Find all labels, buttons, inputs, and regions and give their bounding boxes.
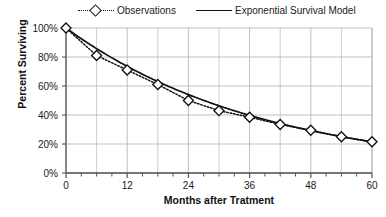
y-axis: [62, 25, 66, 173]
svg-text:100%: 100%: [32, 23, 58, 34]
svg-text:12: 12: [122, 180, 134, 191]
plot-area: 0%20%40%60%80%100%01224364860: [0, 0, 386, 217]
svg-text:60: 60: [366, 180, 378, 191]
svg-text:24: 24: [183, 180, 195, 191]
svg-text:60%: 60%: [38, 81, 58, 92]
svg-text:20%: 20%: [38, 139, 58, 150]
svg-text:48: 48: [305, 180, 317, 191]
svg-text:80%: 80%: [38, 52, 58, 63]
svg-text:0: 0: [63, 180, 69, 191]
svg-text:40%: 40%: [38, 110, 58, 121]
grid-lines: [66, 28, 372, 173]
survival-chart: Observations Exponential Survival Model …: [0, 0, 386, 217]
x-axis: [66, 173, 372, 178]
svg-text:36: 36: [244, 180, 256, 191]
svg-text:0%: 0%: [44, 168, 59, 179]
